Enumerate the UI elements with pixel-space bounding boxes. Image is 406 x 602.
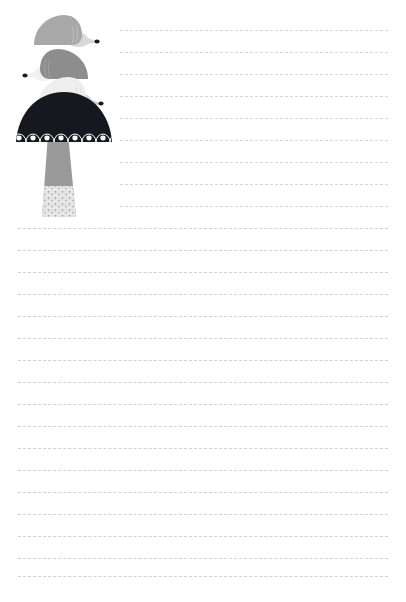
- rule-line: [18, 514, 388, 515]
- rule-line: [120, 184, 388, 185]
- rule-line: [18, 294, 388, 295]
- hedgehog-middle-icon: [22, 49, 88, 81]
- rule-line: [18, 558, 388, 559]
- hedgehog-top-icon: [34, 15, 100, 47]
- rule-line: [120, 206, 388, 207]
- rule-line: [120, 96, 388, 97]
- rule-line: [18, 426, 388, 427]
- rule-line: [18, 536, 388, 537]
- illustration-svg: [10, 8, 118, 220]
- rule-line: [18, 316, 388, 317]
- rule-line: [120, 52, 388, 53]
- rule-line: [18, 576, 388, 577]
- rule-line: [18, 272, 388, 273]
- mushroom-cap: [12, 92, 118, 142]
- rule-line: [120, 30, 388, 31]
- rule-line: [18, 404, 388, 405]
- notepad-page: [0, 0, 406, 602]
- rule-line: [120, 162, 388, 163]
- rule-line: [18, 338, 388, 339]
- hedgehog-mushroom-illustration: [10, 8, 118, 220]
- rule-line: [18, 492, 388, 493]
- rule-line: [18, 382, 388, 383]
- rule-line: [120, 118, 388, 119]
- rule-line: [18, 228, 388, 229]
- rule-line: [120, 140, 388, 141]
- rule-line: [18, 470, 388, 471]
- rule-line: [18, 448, 388, 449]
- rule-line: [18, 360, 388, 361]
- rule-line: [120, 74, 388, 75]
- rule-line: [18, 250, 388, 251]
